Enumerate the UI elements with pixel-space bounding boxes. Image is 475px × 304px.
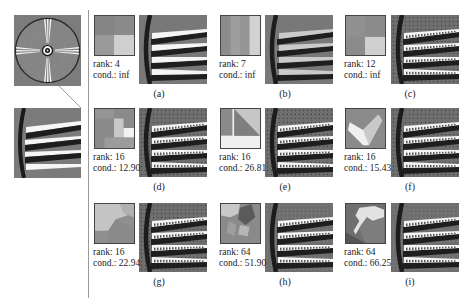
rank-label: rank: 16	[219, 152, 250, 163]
rank-label: rank: 12	[344, 59, 375, 70]
condition-number-label: cond.: 12.90	[93, 163, 140, 174]
panel-caption: (a)	[144, 88, 174, 99]
sampling-pattern-patch	[220, 108, 261, 149]
panel-caption: (b)	[270, 88, 300, 99]
panel-caption: (d)	[144, 181, 174, 192]
panel-caption: (h)	[270, 276, 300, 287]
reconstruction-image	[265, 203, 333, 272]
rank-label: rank: 16	[93, 152, 124, 163]
panel-caption: (e)	[270, 181, 300, 192]
sampling-pattern-patch	[94, 15, 135, 56]
reconstruction-image	[139, 15, 207, 84]
condition-number-label: cond.: 66.25	[344, 258, 391, 269]
sampling-pattern-patch	[220, 15, 261, 56]
rank-label: rank: 16	[93, 247, 124, 258]
reconstruction-image	[139, 203, 207, 272]
rank-label: rank: 4	[93, 59, 120, 70]
reconstruction-image	[391, 15, 459, 84]
vertical-divider	[88, 10, 89, 298]
condition-number-label: cond.: inf	[93, 70, 129, 81]
rank-label: rank: 64	[219, 247, 250, 258]
reconstruction-image	[391, 108, 459, 177]
condition-number-label: cond.: 26.81	[219, 163, 266, 174]
sampling-pattern-patch	[94, 108, 135, 149]
reconstruction-image	[391, 203, 459, 272]
sampling-pattern-patch	[345, 108, 386, 149]
condition-number-label: cond.: inf	[344, 70, 380, 81]
overview-siemens-star	[14, 15, 81, 86]
panel-caption: (c)	[395, 88, 425, 99]
panel-caption: (g)	[144, 276, 174, 287]
reconstruction-image	[139, 108, 207, 177]
rank-label: rank: 16	[344, 152, 375, 163]
condition-number-label: cond.: 15.43	[344, 163, 391, 174]
condition-number-label: cond.: 51.90	[219, 258, 266, 269]
rank-label: rank: 7	[219, 59, 246, 70]
sampling-pattern-patch	[345, 203, 386, 244]
condition-number-label: cond.: 22.94	[93, 258, 140, 269]
panel-caption: (i)	[395, 276, 425, 287]
rank-label: rank: 64	[344, 247, 375, 258]
panel-caption: (f)	[395, 181, 425, 192]
overview-zoom-region	[14, 108, 81, 178]
reconstruction-image	[265, 108, 333, 177]
sampling-pattern-patch	[94, 203, 135, 244]
sampling-pattern-patch	[345, 15, 386, 56]
sampling-pattern-patch	[220, 203, 261, 244]
reconstruction-image	[265, 15, 333, 84]
condition-number-label: cond.: inf	[219, 70, 255, 81]
